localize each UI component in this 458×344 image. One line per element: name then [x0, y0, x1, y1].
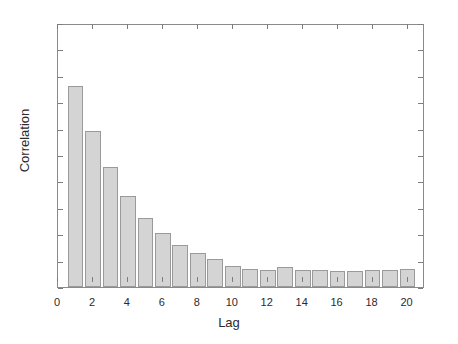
x-tick-mark-top: [162, 24, 163, 29]
y-tick-mark-right: [418, 209, 423, 210]
bar: [295, 270, 311, 287]
x-tick-mark-top: [372, 24, 373, 29]
bar: [155, 233, 171, 287]
y-axis-label: Correlation: [17, 41, 32, 241]
x-tick-mark-top: [337, 24, 338, 29]
y-tick-mark-right: [418, 235, 423, 236]
bar: [277, 267, 293, 287]
x-tick-mark-top: [197, 24, 198, 29]
x-tick-mark: [337, 277, 338, 282]
y-tick-mark-right: [418, 182, 423, 183]
bar: [225, 266, 241, 287]
y-tick-mark: [58, 24, 63, 25]
bar: [382, 270, 398, 287]
y-tick-mark: [58, 130, 63, 131]
x-tick-mark-top: [407, 24, 408, 29]
x-tick-mark: [92, 277, 93, 282]
bar: [365, 270, 381, 287]
x-tick-mark: [127, 277, 128, 282]
x-tick-mark: [162, 277, 163, 282]
y-tick-mark: [58, 103, 63, 104]
y-tick-mark: [58, 50, 63, 51]
y-tick-mark-right: [418, 156, 423, 157]
x-tick-mark: [407, 277, 408, 282]
x-tick-mark-top: [92, 24, 93, 29]
bar: [242, 269, 258, 287]
bar: [260, 270, 276, 287]
x-tick-mark: [267, 277, 268, 282]
x-tick-mark: [197, 277, 198, 282]
y-tick-mark-right: [418, 77, 423, 78]
plot-area: [57, 24, 424, 288]
autocorrelation-chart: 00.10.20.30.40.50.60.70.80.91 0246810121…: [0, 0, 458, 344]
y-tick-mark-right: [418, 24, 423, 25]
bar: [138, 218, 154, 287]
y-tick-mark: [58, 262, 63, 263]
bar: [85, 131, 101, 287]
bar: [312, 270, 328, 287]
bar: [172, 245, 188, 287]
bar-series: [58, 25, 423, 287]
x-tick-mark-top: [127, 24, 128, 29]
y-tick-mark-right: [418, 50, 423, 51]
x-tick-mark: [372, 277, 373, 282]
x-axis-label: Lag: [0, 315, 458, 330]
y-tick-mark: [58, 156, 63, 157]
bar: [347, 271, 363, 287]
x-tick-mark-top: [57, 24, 58, 29]
y-tick-mark: [58, 288, 63, 289]
y-tick-mark: [58, 235, 63, 236]
bar: [330, 271, 346, 287]
bar: [207, 259, 223, 287]
bar: [103, 167, 119, 287]
y-tick-mark: [58, 209, 63, 210]
y-tick-mark-right: [418, 130, 423, 131]
x-tick-label: 20: [387, 296, 427, 308]
bar: [120, 196, 136, 287]
bar: [400, 269, 416, 287]
x-tick-mark-top: [302, 24, 303, 29]
y-tick-mark: [58, 77, 63, 78]
x-tick-mark-top: [232, 24, 233, 29]
x-tick-mark: [302, 277, 303, 282]
y-tick-mark-right: [418, 288, 423, 289]
x-tick-mark: [57, 277, 58, 282]
bar: [68, 86, 84, 287]
x-tick-mark-top: [267, 24, 268, 29]
y-tick-mark-right: [418, 103, 423, 104]
bar: [190, 253, 206, 287]
x-tick-mark: [232, 277, 233, 282]
y-tick-mark-right: [418, 262, 423, 263]
y-tick-mark: [58, 182, 63, 183]
